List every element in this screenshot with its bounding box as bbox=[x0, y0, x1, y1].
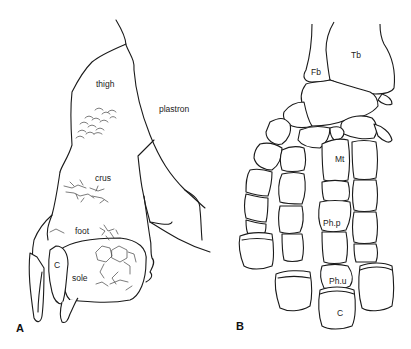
label-thigh: thigh bbox=[96, 79, 115, 89]
label-foot: foot bbox=[75, 226, 90, 236]
thigh-outline bbox=[60, 44, 126, 172]
label-crus: crus bbox=[95, 173, 111, 183]
claw-sheath-4 bbox=[359, 263, 394, 311]
digit-2 bbox=[275, 147, 311, 311]
claw-left bbox=[29, 253, 44, 322]
tarsal-small bbox=[378, 94, 392, 105]
digit-4 bbox=[352, 141, 394, 311]
tarsal-6 bbox=[330, 127, 344, 140]
tarsal-3 bbox=[341, 116, 377, 139]
label-ungual-phalanx: Ph.u bbox=[329, 276, 347, 286]
sole-scales bbox=[96, 246, 136, 290]
tarsal-4 bbox=[374, 124, 392, 142]
claw-c bbox=[49, 246, 68, 304]
sole-outline bbox=[60, 238, 146, 302]
panel-letter-b: B bbox=[236, 320, 244, 332]
label-claw-a: C bbox=[54, 260, 60, 270]
panel-letter-a: A bbox=[16, 322, 24, 334]
label-sole: sole bbox=[72, 273, 88, 283]
label-metatarsal: Mt bbox=[335, 154, 345, 164]
thigh-scales bbox=[76, 108, 116, 138]
crus-scales bbox=[64, 180, 108, 203]
label-tibia: Tb bbox=[351, 50, 361, 60]
label-fibula: Fb bbox=[311, 67, 321, 77]
plastron-notch bbox=[138, 140, 172, 224]
panel-a-drawing bbox=[29, 20, 210, 323]
figure-canvas: thigh plastron crus foot sole C A bbox=[0, 0, 411, 349]
plastron-outline bbox=[116, 20, 205, 208]
label-proximal-phalanx: Ph.p bbox=[323, 218, 341, 228]
label-plastron: plastron bbox=[159, 104, 190, 114]
label-claw-b: C bbox=[337, 308, 343, 318]
digit-3 bbox=[319, 139, 356, 329]
